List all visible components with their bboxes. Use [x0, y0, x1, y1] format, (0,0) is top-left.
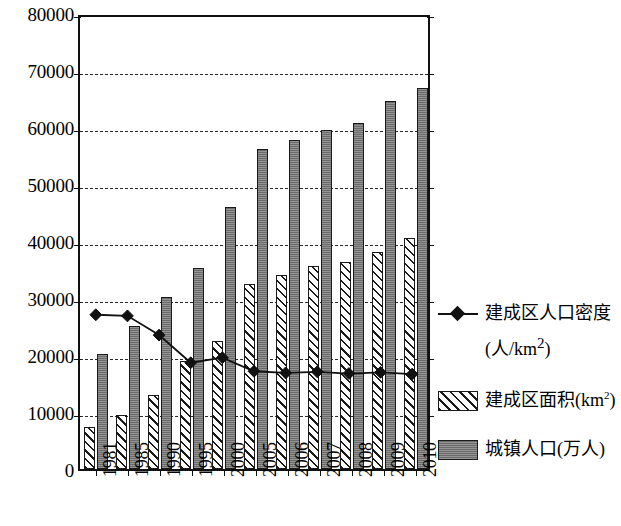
bar-urban-population — [257, 149, 269, 469]
y-axis-tick-mark — [74, 188, 81, 189]
plot-inner — [80, 17, 428, 469]
x-axis-tick-label: 1985 — [133, 442, 151, 477]
y-axis-tick-mark — [74, 17, 81, 18]
x-axis-tick-label: 2008 — [357, 442, 375, 477]
gridline — [80, 245, 428, 246]
legend-item-urban-population: 城镇人口(万人) — [438, 438, 621, 461]
x-axis-tick-label: 2006 — [293, 442, 311, 477]
x-axis-tick-label: 2007 — [325, 442, 343, 477]
legend-density-unit-main: (人/km — [485, 339, 537, 359]
legend-label-density: 建成区人口密度 — [485, 302, 611, 325]
y-axis-tick-mark-right — [427, 74, 434, 75]
x-axis-tick-label: 1990 — [165, 442, 183, 477]
legend-density-unit-sup: 2 — [537, 335, 545, 351]
bar-urban-population — [385, 101, 397, 469]
chart-legend: 建成区人口密度 (人/km2) 建成区面积(km2) 城镇人口(万人) — [438, 302, 621, 467]
y-axis-tick-mark — [74, 74, 81, 75]
x-axis-tick-label: 2009 — [389, 442, 407, 477]
x-axis-tick-label: 2010 — [421, 442, 439, 477]
gridline — [80, 74, 428, 75]
legend-label-urban-population: 城镇人口(万人) — [485, 438, 605, 461]
bar-builtup-area — [276, 275, 288, 469]
plot-area — [78, 15, 430, 471]
x-axis-tick-label: 1981 — [101, 442, 119, 477]
x-axis-tick-label: 2005 — [261, 442, 279, 477]
legend-item-builtup-area: 建成区面积(km2) — [438, 389, 621, 412]
y-axis-tick-label: 20000 — [0, 347, 74, 366]
bar-builtup-area — [372, 252, 384, 469]
diamond-marker-icon — [450, 306, 466, 322]
density-data-point-marker — [122, 310, 134, 322]
y-axis-tick-label: 80000 — [0, 5, 74, 24]
density-data-point-marker — [90, 309, 102, 321]
legend-label-builtup-area: 建成区面积(km2) — [485, 389, 616, 412]
y-axis-tick-label: 30000 — [0, 290, 74, 309]
y-axis-tick-label: 0 — [0, 461, 74, 480]
x-axis-tick-label: 2000 — [229, 442, 247, 477]
y-axis-labels: 0100002000030000400005000060000700008000… — [0, 0, 74, 526]
legend-area-tail: ) — [610, 390, 616, 410]
x-axis-tick-label: 1995 — [197, 442, 215, 477]
y-axis-tick-label: 40000 — [0, 233, 74, 252]
bar-builtup-area — [340, 262, 352, 469]
diamond-line-swatch — [438, 304, 478, 324]
y-axis-tick-mark — [74, 245, 81, 246]
hatched-square-swatch — [438, 391, 478, 411]
legend-label-density-unit: (人/km2) — [485, 331, 621, 361]
y-axis-tick-label: 70000 — [0, 62, 74, 81]
y-axis-tick-mark — [74, 131, 81, 132]
bar-urban-population — [321, 130, 333, 469]
gridline — [80, 188, 428, 189]
bar-builtup-area — [404, 238, 416, 469]
bar-line-chart: 0100002000030000400005000060000700008000… — [0, 0, 621, 526]
legend-area-main: 建成区面积(km — [485, 390, 604, 410]
y-axis-tick-label: 50000 — [0, 176, 74, 195]
bar-urban-population — [417, 88, 429, 469]
y-axis-tick-mark — [74, 416, 81, 417]
gray-square-swatch — [438, 440, 478, 460]
bar-urban-population — [193, 268, 205, 469]
x-axis-labels: 1981198519901995200020052006200720082009… — [78, 471, 430, 526]
y-axis-tick-label: 60000 — [0, 119, 74, 138]
bar-builtup-area — [308, 266, 320, 469]
legend-density-unit-tail: ) — [545, 339, 551, 359]
y-axis-tick-label: 10000 — [0, 404, 74, 423]
y-axis-tick-mark — [74, 359, 81, 360]
bar-urban-population — [225, 207, 237, 469]
gridline — [80, 131, 428, 132]
bar-builtup-area — [84, 427, 96, 469]
bar-urban-population — [353, 123, 365, 469]
y-axis-tick-mark-right — [427, 17, 434, 18]
y-axis-tick-mark — [74, 302, 81, 303]
legend-item-density: 建成区人口密度 — [438, 302, 621, 325]
bar-urban-population — [289, 140, 301, 469]
